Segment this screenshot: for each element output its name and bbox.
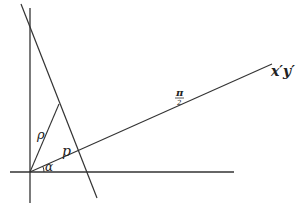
pi-numerator: π: [175, 87, 184, 98]
two-denominator: 2: [176, 99, 182, 107]
diagram-canvas: ρ p α π 2 x′y′: [0, 0, 302, 208]
alpha-angle-arc: [43, 166, 44, 172]
alpha-label: α: [45, 160, 53, 174]
rotated-axis-label: x′y′: [270, 63, 295, 79]
p-label: p: [62, 143, 71, 159]
oblique-line: [21, 4, 97, 198]
rho-label: ρ: [36, 127, 45, 142]
